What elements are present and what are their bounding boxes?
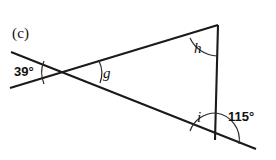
angle-label-39: 39°	[14, 65, 34, 78]
arc-angle-g	[99, 61, 102, 83]
figure-canvas: (c) 39° g h i 115°	[0, 0, 276, 160]
angle-label-115: 115°	[228, 110, 254, 123]
angle-label-g: g	[103, 66, 111, 81]
vertical-right-side	[215, 25, 218, 140]
line-lower-left-to-top-vertex	[10, 25, 218, 88]
geometry-diagram	[0, 0, 276, 160]
angle-label-i: i	[197, 110, 201, 125]
angle-label-h: h	[194, 41, 202, 56]
line-upper-left-to-lower-right	[11, 52, 256, 149]
figure-part-label: (c)	[12, 26, 29, 41]
